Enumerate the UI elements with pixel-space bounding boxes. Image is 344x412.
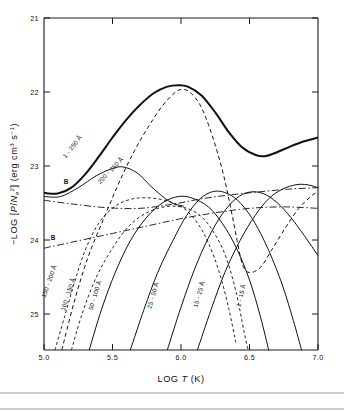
y-axis-title: −LOG [P/Ne2] (erg cm3 s−1)	[8, 123, 21, 245]
y-axis-title-n: N	[9, 195, 19, 202]
chart-plot: 5.0 5.5 6.0 6.5 7.0 21 22 23 24 25 LOG T…	[0, 0, 344, 412]
y-tick-label: 23	[30, 162, 39, 171]
x-tick-label: 7.0	[312, 353, 323, 362]
y-axis-title-close: ] (erg cm	[9, 147, 19, 188]
svg-text:−LOG [P/Ne2] (erg cm3 s−1): −LOG [P/Ne2] (erg cm3 s−1)	[8, 123, 21, 245]
svg-text:LOG T (K): LOG T (K)	[158, 374, 205, 384]
y-axis-title-mid: s	[9, 135, 19, 143]
curve-200-250-	[44, 167, 184, 206]
curve-layer	[44, 85, 318, 350]
curve-1-250-	[44, 85, 318, 194]
x-tick-label: 6.0	[175, 353, 186, 362]
y-axis-title-end: )	[9, 123, 19, 127]
x-axis-title-prefix: LOG	[158, 374, 182, 384]
curve-annotation: 200 - 250 Å	[96, 155, 125, 185]
x-axis-title-suffix: (K)	[188, 374, 205, 384]
curve-annotation: 25 - 50 Å	[146, 281, 160, 309]
y-tick-label: 22	[30, 88, 39, 97]
curve-annotation: 15 - 25 Å	[192, 280, 206, 308]
x-tick-label: 5.0	[38, 353, 49, 362]
annotation-layer: 1 - 250 Å200 - 250 Å150 - 200 Å100 - 150…	[40, 133, 247, 311]
curve-envelope-dashed	[62, 89, 318, 350]
curve-annotation: 1 - 15 Å	[234, 283, 247, 308]
x-axis-ticks	[44, 18, 318, 350]
x-tick-label: 6.5	[244, 353, 255, 362]
curve-b-lower	[44, 207, 318, 248]
y-tick-label: 21	[30, 14, 39, 23]
y-tick-label: 24	[30, 236, 39, 245]
curve-1-15-	[197, 184, 318, 350]
y-axis-title-prefix: −LOG [	[9, 212, 19, 245]
curve-100-150-	[71, 206, 248, 350]
x-tick-labels: 5.0 5.5 6.0 6.5 7.0	[38, 353, 323, 362]
y-tick-label: 25	[30, 310, 39, 319]
plot-frame	[44, 18, 318, 350]
figure-container: 5.0 5.5 6.0 6.5 7.0 21 22 23 24 25 LOG T…	[0, 0, 344, 412]
curve-annotation: B	[51, 234, 56, 241]
x-axis-title: LOG T (K)	[158, 374, 205, 384]
y-tick-labels: 21 22 23 24 25	[30, 14, 39, 319]
curve-annotation: B	[64, 178, 69, 185]
x-tick-label: 5.5	[107, 353, 118, 362]
curve-annotation: 1 - 250 Å	[61, 133, 83, 159]
curve-annotation: 150 - 200 Å	[40, 263, 59, 298]
page-rules	[0, 390, 344, 412]
y-axis-title-sup-s: −1	[8, 126, 15, 134]
